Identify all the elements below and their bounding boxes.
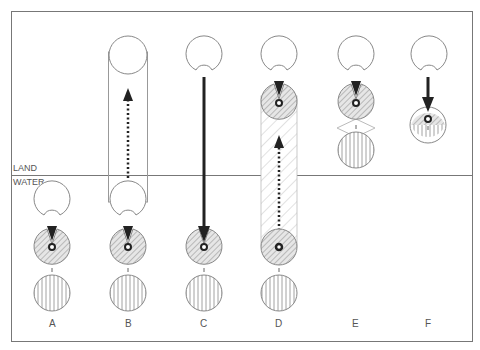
column-label: D	[275, 318, 282, 329]
striped-circle	[34, 275, 70, 311]
column-d: D	[261, 36, 297, 329]
striped-circle	[110, 275, 146, 311]
arrow-down-icon	[422, 97, 434, 112]
open-circle-top	[186, 36, 222, 70]
striped-circle	[261, 275, 297, 311]
nucleus	[276, 100, 282, 106]
column-label: C	[200, 318, 207, 329]
open-circle	[110, 181, 146, 215]
open-circle-top	[109, 36, 147, 74]
striped-circle	[186, 275, 222, 311]
column-e: E	[337, 36, 375, 329]
column-c: C	[186, 36, 222, 329]
nucleus	[125, 244, 131, 250]
column-label: E	[352, 318, 359, 329]
column-f: F	[410, 36, 447, 329]
open-circle-top	[338, 36, 374, 70]
open-circle-top	[411, 36, 447, 70]
arrow-up-icon	[123, 88, 133, 101]
nucleus	[276, 244, 282, 250]
open-circle-top	[261, 36, 297, 70]
column-label: B	[125, 318, 132, 329]
column-b: B	[109, 36, 148, 329]
diagram-canvas: LAND WATER A B C	[0, 0, 480, 350]
nucleus	[353, 100, 359, 106]
column-label: A	[49, 318, 56, 329]
column-a: A	[34, 181, 70, 329]
nucleus	[49, 244, 55, 250]
diagram-frame	[12, 12, 473, 342]
nucleus	[201, 244, 207, 250]
nucleus	[425, 116, 431, 122]
striped-circle	[338, 132, 374, 168]
land-label: LAND	[13, 163, 38, 173]
open-circle	[34, 181, 70, 215]
column-label: F	[425, 318, 431, 329]
